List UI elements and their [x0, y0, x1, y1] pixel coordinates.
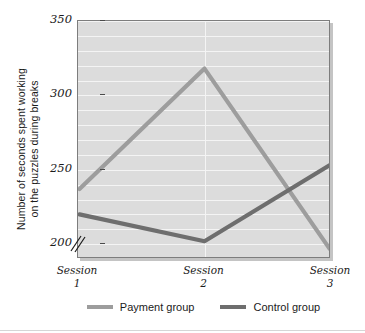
- x-axis-tick-session-word: Session: [310, 264, 351, 276]
- legend-label: Control group: [253, 301, 320, 313]
- chart-legend: Payment groupControl group: [77, 301, 330, 313]
- y-axis-tick-mark: [100, 94, 105, 95]
- x-axis-tick-session-number: 3: [290, 277, 365, 290]
- legend-entry: Payment group: [87, 301, 195, 313]
- line-control-group: [80, 165, 330, 241]
- y-axis-title-line2: on the puzzles during breaks: [28, 80, 40, 217]
- axis-break-icon: [68, 233, 86, 255]
- x-axis-tick-session-word: Session: [57, 264, 98, 276]
- y-axis-tick-mark: [100, 20, 105, 21]
- y-axis-tick-label: 350: [30, 14, 72, 25]
- figure-baseline-rule: [0, 330, 365, 331]
- legend-label: Payment group: [120, 301, 195, 313]
- x-axis-tick-label: Session1: [37, 264, 117, 290]
- y-axis-title: Number of seconds spent working on the p…: [15, 33, 41, 265]
- plot-area: [77, 20, 330, 258]
- x-axis-tick-label: Session2: [164, 264, 244, 290]
- y-axis-tick-mark: [100, 169, 105, 170]
- x-axis-tick-session-word: Session: [183, 264, 224, 276]
- y-axis-title-line1: Number of seconds spent working: [15, 68, 27, 230]
- chart-figure: 200250300350 Number of seconds spent wor…: [0, 0, 365, 333]
- legend-swatch-icon: [220, 305, 246, 309]
- y-axis-tick-mark: [100, 243, 105, 244]
- x-axis-tick-session-number: 2: [164, 277, 244, 290]
- series-lines: [78, 21, 330, 258]
- legend-swatch-icon: [87, 305, 113, 309]
- legend-entry: Control group: [220, 301, 320, 313]
- x-axis-tick-label: Session3: [290, 264, 365, 290]
- x-axis-tick-session-number: 1: [37, 277, 117, 290]
